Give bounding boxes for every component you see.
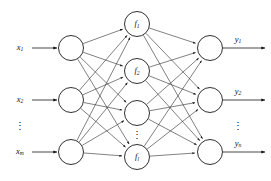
input-label-3: xm	[15, 146, 24, 157]
edge-input1-hidden1	[83, 29, 123, 43]
input-label-3-subscript: m	[20, 150, 24, 156]
edge-input3-hidden4	[84, 153, 122, 156]
edge-hidden2-output1	[149, 53, 195, 68]
edges-input-to-hidden	[77, 29, 130, 156]
output-node-3	[198, 140, 223, 165]
input-node-3	[59, 140, 84, 165]
edge-input1-hidden4	[78, 59, 129, 144]
output-nodes	[198, 36, 223, 165]
output-node-1	[198, 36, 223, 61]
edge-hidden1-output1	[149, 28, 195, 43]
hidden-nodes: f1f2fl	[125, 12, 150, 170]
output-arrows	[223, 48, 265, 152]
input-label-2: x2	[16, 94, 24, 105]
output-label-3: yn	[234, 138, 242, 149]
hidden-node-2-subscript: 2	[137, 70, 140, 76]
output-label-2-subscript: 2	[238, 90, 241, 96]
hidden-node-3	[125, 101, 150, 126]
input-arrows	[32, 48, 57, 152]
edge-hidden4-output3	[150, 153, 195, 156]
edges-hidden-to-output	[143, 28, 202, 156]
output-ellipsis: ⋮	[233, 120, 243, 131]
input-nodes	[59, 36, 84, 165]
output-label-3-subscript: n	[238, 142, 241, 148]
input-label-2-subscript: 2	[20, 98, 23, 104]
hidden-ellipsis: ⋮	[132, 129, 142, 140]
neural-network-diagram: f1f2fl x1x2xmy1y2yn⋮⋮⋮	[0, 0, 271, 181]
edge-input2-hidden4	[81, 109, 126, 148]
output-label-1-subscript: 1	[238, 38, 241, 44]
input-node-2	[59, 88, 84, 113]
edge-hidden2-output2	[149, 76, 196, 95]
input-label-1: x1	[16, 42, 24, 53]
edge-hidden1-output3	[143, 35, 202, 139]
input-node-1	[59, 36, 84, 61]
edge-input1-hidden2	[83, 52, 122, 66]
edge-input1-hidden3	[80, 57, 126, 102]
edge-hidden4-output2	[147, 109, 198, 149]
edge-input2-hidden1	[80, 35, 128, 90]
edge-hidden3-output1	[147, 58, 199, 104]
output-label-1: y1	[234, 34, 242, 45]
hidden-node-1-subscript: 1	[137, 23, 140, 29]
output-label-2: y2	[234, 86, 242, 97]
network-canvas: f1f2fl x1x2xmy1y2yn⋮⋮⋮	[0, 0, 271, 181]
output-node-2	[198, 88, 223, 113]
edge-input3-hidden3	[82, 121, 124, 146]
edge-hidden3-output3	[148, 119, 196, 145]
input-ellipsis: ⋮	[15, 120, 25, 131]
edge-input2-hidden3	[84, 103, 122, 111]
input-label-1-subscript: 1	[20, 46, 23, 52]
